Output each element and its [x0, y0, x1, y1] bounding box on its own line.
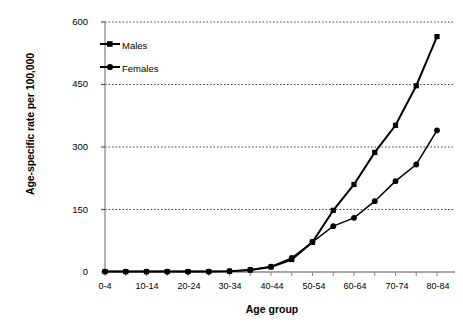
data-point-females-75-79 [413, 162, 419, 168]
data-point-males-60-64 [351, 182, 356, 187]
data-point-females-35-39 [247, 267, 253, 273]
series-females [102, 127, 440, 274]
data-point-females-65-69 [372, 198, 378, 204]
data-point-males-55-59 [331, 208, 336, 213]
legend-marker-females [107, 64, 113, 70]
axis-ticks [101, 22, 437, 276]
data-point-females-20-24 [185, 269, 191, 275]
series-line-males [105, 37, 437, 272]
data-point-males-70-74 [393, 123, 398, 128]
data-point-females-55-59 [330, 223, 336, 229]
data-point-females-5-9 [123, 269, 129, 275]
data-series-layer [102, 34, 440, 275]
data-point-females-15-19 [164, 269, 170, 275]
chart-canvas [0, 0, 463, 332]
legend-markers [100, 41, 120, 70]
data-point-females-0-4 [102, 269, 108, 275]
data-point-females-40-44 [268, 264, 274, 270]
data-point-females-10-14 [144, 269, 150, 275]
data-point-males-75-79 [414, 83, 419, 88]
data-point-females-50-54 [310, 239, 316, 245]
data-point-females-45-49 [289, 255, 295, 261]
data-point-females-60-64 [351, 215, 357, 221]
data-point-males-65-69 [372, 150, 377, 155]
legend-marker-males [107, 41, 113, 47]
data-point-females-30-34 [227, 268, 233, 274]
data-point-females-25-29 [206, 269, 212, 275]
series-line-females [105, 130, 437, 271]
series-males [102, 34, 439, 274]
gridlines [105, 22, 455, 210]
data-point-males-80-84 [434, 34, 439, 39]
data-point-females-70-74 [393, 178, 399, 184]
data-point-females-80-84 [434, 127, 440, 133]
age-specific-rate-line-chart: Age-specific rate per 100,000 600 450 30… [0, 0, 463, 332]
